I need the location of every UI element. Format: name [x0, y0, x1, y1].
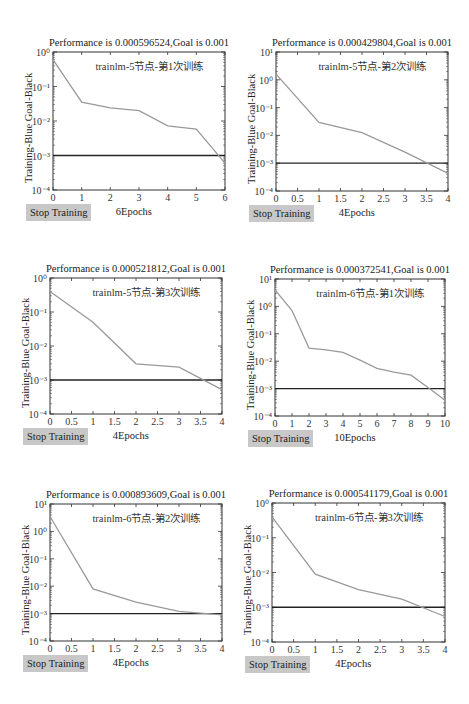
x-tick-label: 1 [313, 644, 318, 655]
axes-box [272, 503, 445, 642]
epochs-label: 4Epochs [335, 658, 371, 669]
y-tick-label: 10⁻¹ [251, 533, 269, 544]
plot-area: 00.511.522.533.5410⁻⁴10⁻³10⁻²10⁻¹10⁰trai… [0, 0, 469, 704]
x-tick-label: 0.5 [287, 644, 300, 655]
x-tick-label: 2.5 [374, 644, 387, 655]
y-tick-label: 10⁰ [255, 498, 269, 509]
y-tick-label: 10⁻⁴ [251, 637, 270, 648]
y-tick-label: 10⁻² [251, 568, 269, 579]
stop-training-button[interactable]: Stop Training [245, 656, 310, 673]
y-tick-label: 10⁻³ [251, 602, 269, 613]
x-tick-label: 3 [399, 644, 404, 655]
x-tick-label: 4 [443, 644, 448, 655]
chart-annotation: trainlm-6节点-第3次训练 [315, 511, 424, 523]
training-line [272, 517, 445, 617]
x-tick-label: 0 [270, 644, 275, 655]
x-tick-label: 1.5 [331, 644, 344, 655]
x-tick-label: 2 [356, 644, 361, 655]
x-tick-label: 3.5 [417, 644, 430, 655]
